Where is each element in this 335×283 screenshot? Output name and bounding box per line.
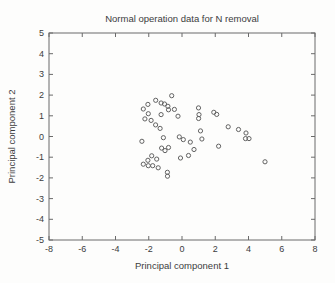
data-point bbox=[141, 107, 145, 111]
y-tick-label: -3 bbox=[36, 194, 44, 204]
y-tick-label: 1 bbox=[39, 111, 44, 121]
y-tick-label: -2 bbox=[36, 173, 44, 183]
data-point bbox=[141, 162, 145, 166]
data-point bbox=[146, 164, 150, 168]
data-point bbox=[154, 98, 158, 102]
data-point bbox=[163, 149, 167, 153]
data-point bbox=[149, 118, 153, 122]
y-tick-label: -4 bbox=[36, 214, 44, 224]
data-point bbox=[156, 166, 160, 170]
x-tick-label: -2 bbox=[145, 244, 153, 254]
y-tick-label: -1 bbox=[36, 152, 44, 162]
axis-ticks bbox=[49, 33, 315, 240]
x-tick-label: 6 bbox=[279, 244, 284, 254]
data-point bbox=[155, 157, 159, 161]
y-tick-labels: -5-4-3-2-1012345 bbox=[36, 28, 44, 245]
scatter-figure: -8-6-4-202468 -5-4-3-2-1012345 Normal op… bbox=[0, 0, 335, 283]
data-point bbox=[186, 153, 190, 157]
data-point bbox=[140, 139, 144, 143]
plot-area bbox=[49, 33, 315, 240]
data-point bbox=[188, 140, 192, 144]
x-tick-label: 0 bbox=[179, 244, 184, 254]
data-point bbox=[150, 154, 154, 158]
data-point bbox=[177, 135, 181, 139]
y-tick-label: -5 bbox=[36, 235, 44, 245]
data-point bbox=[236, 127, 240, 131]
y-tick-label: 5 bbox=[39, 28, 44, 38]
x-tick-label: 8 bbox=[312, 244, 317, 254]
data-point bbox=[154, 123, 158, 127]
data-point bbox=[159, 113, 163, 117]
x-tick-label: -6 bbox=[78, 244, 86, 254]
data-point bbox=[196, 106, 200, 110]
x-tick-labels: -8-6-4-202468 bbox=[45, 244, 318, 254]
data-point bbox=[181, 138, 185, 142]
y-axis-label: Principal component 2 bbox=[6, 90, 17, 184]
tick-marks bbox=[49, 33, 315, 240]
data-point bbox=[192, 147, 196, 151]
data-point bbox=[217, 144, 221, 148]
y-tick-label: 2 bbox=[39, 90, 44, 100]
chart-title: Normal operation data for N removal bbox=[105, 13, 259, 24]
data-point bbox=[263, 160, 267, 164]
data-point bbox=[151, 164, 155, 168]
plot-canvas: -8-6-4-202468 -5-4-3-2-1012345 Normal op… bbox=[0, 0, 335, 283]
data-point bbox=[143, 117, 147, 121]
data-point bbox=[176, 114, 180, 118]
x-tick-label: -4 bbox=[111, 244, 119, 254]
y-tick-label: 0 bbox=[39, 132, 44, 142]
data-point bbox=[200, 137, 204, 141]
data-point bbox=[244, 131, 248, 135]
data-point bbox=[198, 129, 202, 133]
data-point bbox=[146, 112, 150, 116]
y-tick-label: 4 bbox=[39, 49, 44, 59]
data-point bbox=[158, 126, 162, 130]
data-point bbox=[172, 107, 176, 111]
data-point bbox=[170, 94, 174, 98]
data-point bbox=[166, 145, 170, 149]
data-point bbox=[226, 125, 230, 129]
data-point bbox=[178, 156, 182, 160]
data-point bbox=[146, 158, 150, 162]
data-point bbox=[146, 102, 150, 106]
x-axis-label: Principal component 1 bbox=[135, 260, 229, 271]
x-tick-label: -8 bbox=[45, 244, 53, 254]
x-tick-label: 2 bbox=[213, 244, 218, 254]
data-point bbox=[161, 136, 165, 140]
y-tick-label: 3 bbox=[39, 69, 44, 79]
x-tick-label: 4 bbox=[246, 244, 251, 254]
data-points bbox=[140, 94, 267, 179]
